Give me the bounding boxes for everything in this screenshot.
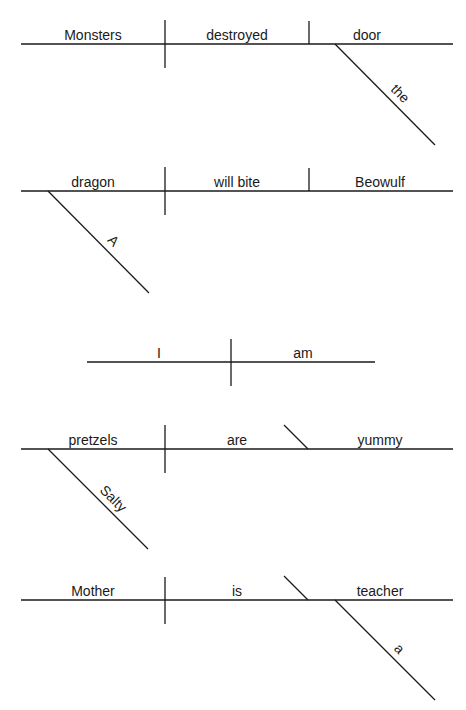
- diagram-2: dragon will bite Beowulf A: [21, 167, 453, 293]
- diagram-3: I am: [87, 339, 375, 386]
- modifier-line: [48, 449, 148, 549]
- diagram-4: pretzels are yummy Salty: [21, 425, 453, 549]
- verb-word: are: [227, 432, 247, 448]
- complement-word: yummy: [357, 432, 402, 448]
- modifier-line: [335, 600, 435, 700]
- object-word: Beowulf: [355, 174, 405, 190]
- verb-word: am: [293, 345, 312, 361]
- subject-word: dragon: [71, 174, 115, 190]
- modifier-line: [48, 191, 149, 293]
- complement-slant-divider: [284, 425, 308, 449]
- verb-word: is: [232, 583, 242, 599]
- modifier-word: the: [388, 81, 413, 106]
- subject-word: I: [157, 345, 161, 361]
- modifier-line: [335, 44, 435, 145]
- complement-slant-divider: [284, 576, 308, 600]
- verb-word: destroyed: [206, 27, 267, 43]
- sentence-diagrams-canvas: Monsters destroyed door the dragon will …: [0, 0, 466, 710]
- object-word: door: [353, 27, 381, 43]
- verb-word: will bite: [213, 174, 260, 190]
- diagram-1: Monsters destroyed door the: [21, 20, 453, 145]
- complement-word: teacher: [357, 583, 404, 599]
- subject-word: Monsters: [64, 27, 122, 43]
- diagram-5: Mother is teacher a: [21, 576, 453, 700]
- subject-word: pretzels: [68, 432, 117, 448]
- subject-word: Mother: [71, 583, 115, 599]
- modifier-word: a: [391, 640, 408, 657]
- modifier-word: A: [105, 232, 123, 250]
- modifier-word: Salty: [97, 482, 130, 515]
